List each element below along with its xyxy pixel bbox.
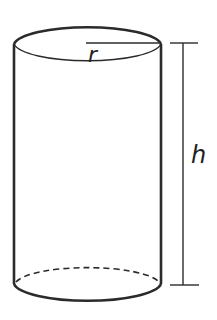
cylinder-diagram: r h <box>0 0 217 320</box>
bottom-ellipse-hidden <box>16 268 159 282</box>
height-label: h <box>191 141 206 169</box>
bottom-ellipse-front <box>14 284 161 301</box>
radius-label: r <box>88 42 99 67</box>
